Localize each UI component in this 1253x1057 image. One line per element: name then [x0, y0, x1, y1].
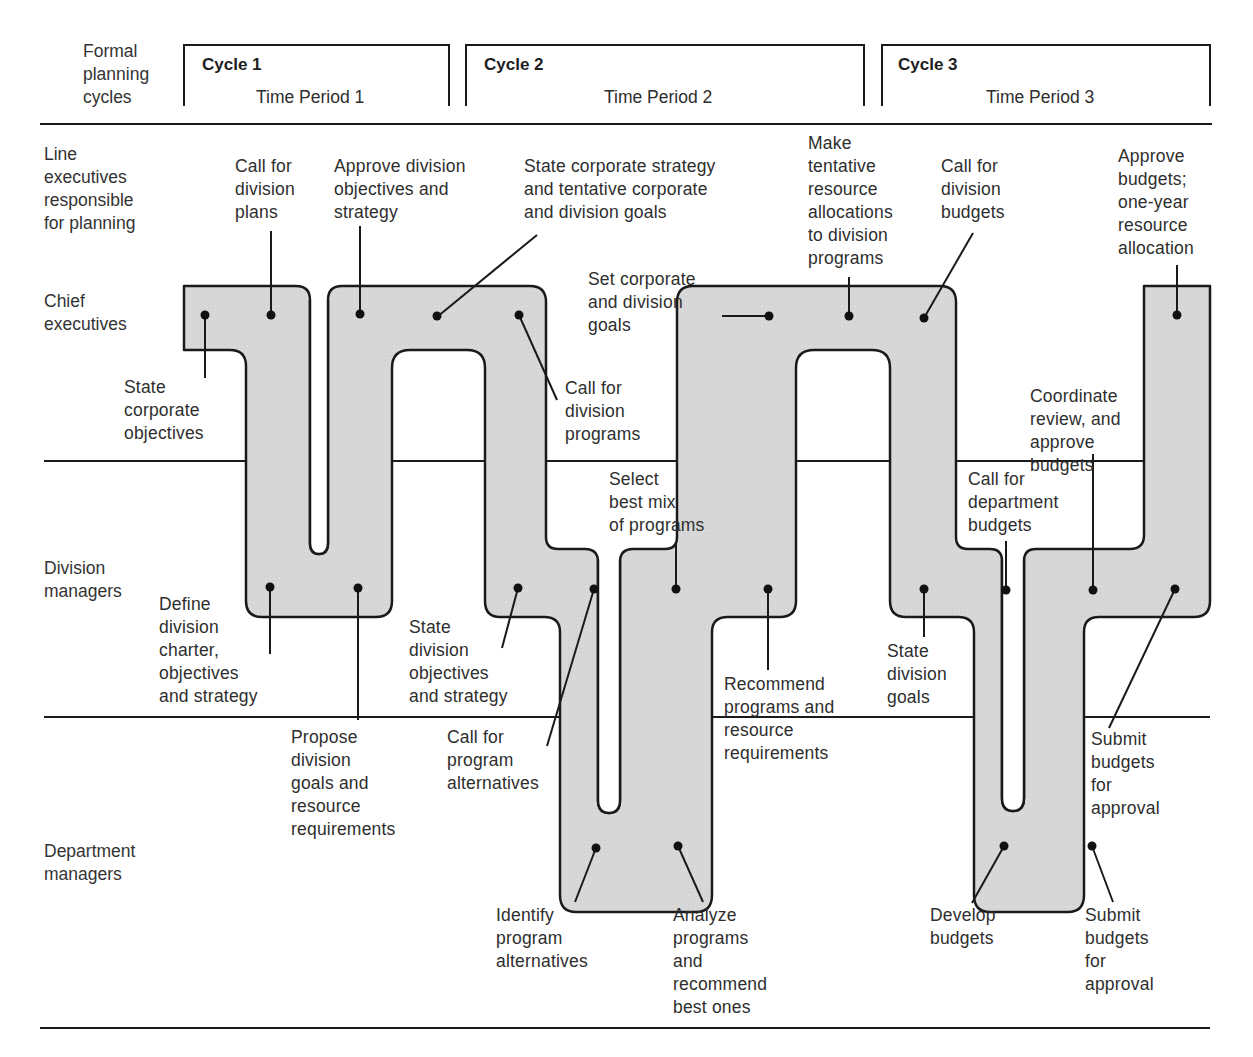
- dot-state-division-objectives: [514, 584, 523, 593]
- cycle-1-title: Cycle 1: [202, 55, 262, 75]
- dot-state-corporate-strategy: [433, 312, 442, 321]
- dot-call-dept-budgets: [1002, 586, 1011, 595]
- lane-label-division-managers: Division managers: [44, 557, 122, 603]
- cycle-2-period: Time Period 2: [604, 87, 712, 108]
- dot-recommend-programs: [764, 585, 773, 594]
- step-set-corporate-division-goals: Set corporate and division goals: [588, 268, 696, 337]
- step-approve-budgets: Approve budgets; one-year resource alloc…: [1118, 145, 1194, 260]
- header-row-label: Formal planning cycles: [83, 40, 149, 109]
- step-analyze-programs: Analyze programs and recommend best ones: [673, 904, 767, 1019]
- cycle-1-period: Time Period 1: [256, 87, 364, 108]
- cycle-3-period: Time Period 3: [986, 87, 1094, 108]
- dot-develop-budgets: [1000, 842, 1009, 851]
- step-call-for-department-budgets: Call for department budgets: [968, 468, 1059, 537]
- step-call-for-division-budgets: Call for division budgets: [941, 155, 1005, 224]
- dot-approve-budgets: [1173, 311, 1182, 320]
- dot-identify-alternatives: [592, 844, 601, 853]
- dot-select-best-mix: [672, 585, 681, 594]
- hole-slot-3: [1002, 560, 1024, 811]
- step-state-corporate-strategy: State corporate strategy and tentative c…: [524, 155, 716, 224]
- step-coordinate-review: Coordinate review, and approve budgets: [1030, 385, 1121, 477]
- step-state-division-objectives: State division objectives and strategy: [409, 616, 508, 708]
- step-propose-division-goals: Propose division goals and resource requ…: [291, 726, 396, 841]
- cycle-2-title: Cycle 2: [484, 55, 544, 75]
- dot-submit-div: [1171, 585, 1180, 594]
- step-state-division-goals: State division goals: [887, 640, 947, 709]
- dot-propose-goals: [354, 584, 363, 593]
- dot-analyze-programs: [674, 842, 683, 851]
- step-develop-budgets: Develop budgets: [930, 904, 996, 950]
- leader-submit-dept: [1092, 846, 1113, 902]
- dot-coordinate-review: [1089, 586, 1098, 595]
- dot-call-for-division-plans: [267, 311, 276, 320]
- dot-call-program-alternatives: [590, 585, 599, 594]
- step-recommend-programs: Recommend programs and resource requirem…: [724, 673, 834, 765]
- lane-label-chief-executives: Chief executives: [44, 290, 127, 336]
- step-make-tentative-allocations: Make tentative resource allocations to d…: [808, 132, 893, 270]
- dot-make-allocations: [845, 312, 854, 321]
- hole-slot-1: [310, 300, 328, 554]
- step-call-for-division-programs: Call for division programs: [565, 377, 641, 446]
- dot-call-for-division-budgets: [920, 314, 929, 323]
- dot-set-goals: [765, 312, 774, 321]
- lane-label-line-executives: Line executives responsible for planning: [44, 143, 135, 235]
- step-state-corporate-objectives: State corporate objectives: [124, 376, 204, 445]
- step-select-best-mix: Select best mix of programs: [609, 468, 705, 537]
- step-call-for-division-plans: Call for division plans: [235, 155, 295, 224]
- step-submit-budgets-division: Submit budgets for approval: [1091, 728, 1160, 820]
- dot-submit-dept: [1088, 842, 1097, 851]
- dot-state-division-goals: [920, 585, 929, 594]
- step-define-division-charter: Define division charter, objectives and …: [159, 593, 258, 708]
- step-submit-budgets-department: Submit budgets for approval: [1085, 904, 1154, 996]
- step-approve-division-objectives: Approve division objectives and strategy: [334, 155, 466, 224]
- dot-state-corporate-objectives: [201, 311, 210, 320]
- step-call-for-program-alternatives: Call for program alternatives: [447, 726, 539, 795]
- dot-define-charter: [266, 583, 275, 592]
- cycle-3-title: Cycle 3: [898, 55, 958, 75]
- dot-approve-division-objectives: [356, 310, 365, 319]
- step-identify-program-alternatives: Identify program alternatives: [496, 904, 588, 973]
- lane-label-department-managers: Department managers: [44, 840, 135, 886]
- hole-slot-2: [598, 560, 620, 813]
- dot-call-for-division-programs: [515, 311, 524, 320]
